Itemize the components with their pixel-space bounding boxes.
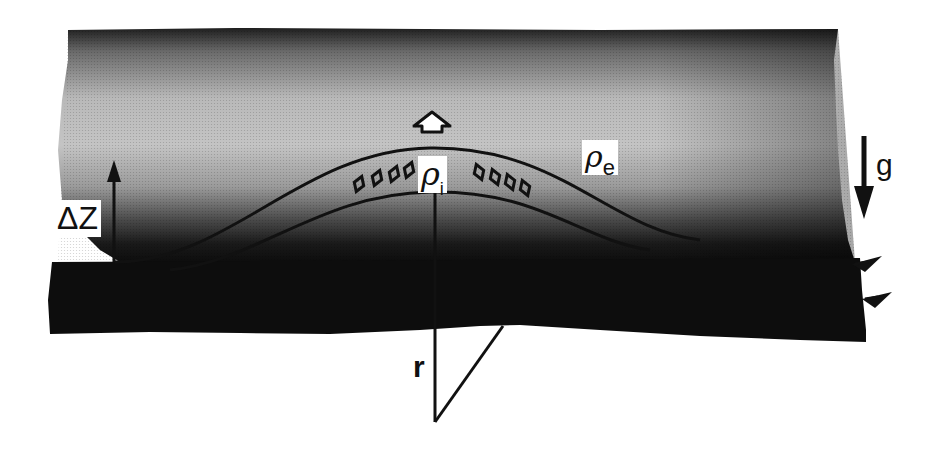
- gravity-arrow-icon: [854, 136, 874, 219]
- rho-i-label: ρi: [418, 156, 447, 193]
- diagram-svg: [0, 0, 939, 456]
- rho-i-symbol: ρ: [421, 155, 440, 193]
- diagram: ρi ρe ΔZ g r: [0, 0, 939, 456]
- gravity-label: g: [876, 150, 893, 180]
- delta-z-label: ΔZ: [54, 200, 101, 237]
- radius-label: r: [413, 352, 425, 382]
- rho-e-label: ρe: [582, 140, 618, 175]
- rho-e-symbol: ρ: [585, 139, 603, 174]
- rho-e-subscript: e: [603, 155, 615, 180]
- rho-i-subscript: i: [440, 179, 444, 199]
